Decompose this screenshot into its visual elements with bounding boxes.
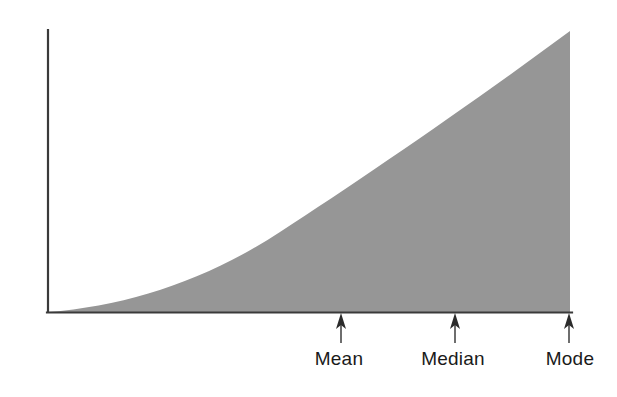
marker-mean: Mean [315,313,363,369]
mode-label: Mode [546,348,594,369]
median-label: Median [421,348,485,369]
distribution-area [48,31,570,312]
marker-mode: Mode [546,313,594,369]
marker-median: Median [421,313,485,369]
mean-label: Mean [315,348,363,369]
skewed-distribution-chart: Mean Median Mode [0,0,617,397]
